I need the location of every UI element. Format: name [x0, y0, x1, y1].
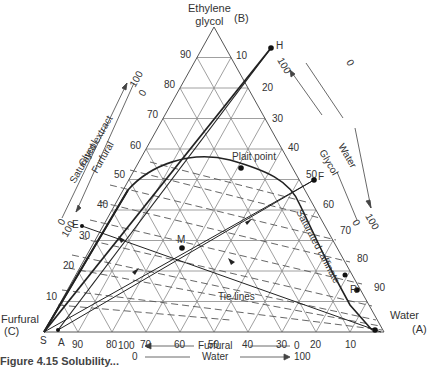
tick-right-10: 10 [236, 51, 247, 61]
vertex-label-furfural: Furfural [1, 314, 39, 325]
tick-right-20: 20 [262, 83, 273, 93]
point-label-A: A [58, 338, 65, 348]
tick-bottom-80: 80 [106, 340, 117, 350]
tick-left-50: 50 [114, 170, 125, 180]
tick-left-80: 80 [164, 80, 175, 90]
tick-right-50: 50 [306, 170, 317, 180]
tick-left-20: 20 [63, 261, 74, 271]
tick-bottom-40: 40 [242, 340, 253, 350]
bottom-arrow-furfural-end: 0 [294, 341, 300, 351]
vertex-label-line2: glycol [188, 15, 231, 28]
vertex-label-line1: Ethylene [188, 2, 231, 15]
bottom-arrow-water-end: 100 [294, 352, 311, 362]
point-label-R: R [350, 285, 357, 295]
grid-lines [61, 58, 367, 333]
point-label-F: F [318, 172, 324, 182]
tick-left-60: 60 [130, 141, 141, 151]
arrowhead [132, 268, 139, 275]
tick-right-40: 40 [288, 143, 299, 153]
extract-line [44, 190, 128, 332]
tick-bottom-20: 20 [310, 340, 321, 350]
bottom-arrow-water-label: Water [202, 352, 228, 362]
tick-bottom-30: 30 [276, 340, 287, 350]
vertex-code-B: (B) [234, 13, 249, 24]
tick-bottom-60: 60 [174, 340, 185, 350]
tick-left-70: 70 [147, 110, 158, 120]
tick-bottom-90: 90 [72, 340, 83, 350]
vertex-label-glycol: Ethylene glycol [188, 2, 231, 27]
tick-right-70: 70 [340, 226, 351, 236]
tick-right-90: 90 [374, 283, 385, 293]
vertex-code-A: (A) [412, 324, 427, 335]
tick-right-60: 60 [323, 200, 334, 210]
tick-right-80: 80 [357, 254, 368, 264]
bottom-arrow-furfural-start: 100 [118, 341, 135, 351]
vertex-label-water: Water [390, 310, 419, 321]
point-label-H: H [276, 41, 283, 51]
point-label-S: S [40, 336, 47, 346]
tick-left-90: 90 [180, 50, 191, 60]
tick-left-40: 40 [97, 200, 108, 210]
tick-right-30: 30 [272, 114, 283, 124]
tie-lines [58, 162, 382, 330]
tie-lines-label: Tie lines [218, 292, 255, 302]
bottom-arrow-furfural-label: Furfural [198, 341, 232, 351]
axis-arrows [62, 63, 371, 360]
vertex-code-C: (C) [4, 326, 19, 337]
point-label-M: M [177, 235, 185, 245]
figure-caption: Figure 4.15 Solubility... [0, 355, 119, 367]
tick-left-10: 10 [46, 292, 57, 302]
arrowhead [228, 258, 235, 265]
tick-left-30: 30 [79, 231, 90, 241]
tick-bottom-70: 70 [140, 340, 151, 350]
plait-point-label: Plait point [232, 152, 276, 162]
bottom-arrow-water-start: 0 [132, 352, 138, 362]
tick-bottom-10: 10 [345, 340, 356, 350]
